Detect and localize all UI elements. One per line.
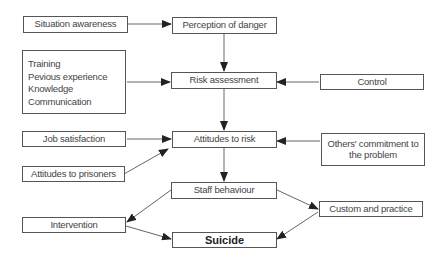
factor-previous-experience: Pevious experience <box>28 71 107 84</box>
node-risk-assessment: Risk assessment <box>171 72 277 89</box>
node-custom-and-practice: Custom and practice <box>319 201 423 217</box>
factor-knowledge: Knowledge <box>28 83 73 96</box>
node-training-factors: Training Pevious experience Knowledge Co… <box>22 50 126 114</box>
factor-communication: Communication <box>28 96 91 109</box>
node-control: Control <box>320 74 424 90</box>
factor-training: Training <box>28 58 60 71</box>
node-attitudes-to-prisoners: Attitudes to prisoners <box>22 166 125 182</box>
node-others-commitment: Others' commitment to the problem <box>321 133 425 166</box>
node-situation-awareness: Situation awareness <box>23 16 128 33</box>
node-job-satisfaction: Job satisfaction <box>22 131 126 147</box>
node-attitudes-to-risk: Attitudes to risk <box>172 131 277 148</box>
node-suicide: Suicide <box>172 232 277 248</box>
node-perception-of-danger: Perception of danger <box>172 17 277 34</box>
node-intervention: Intervention <box>22 217 126 233</box>
node-staff-behaviour: Staff behaviour <box>171 182 277 199</box>
